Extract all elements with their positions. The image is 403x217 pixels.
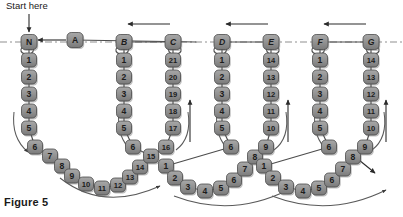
node-label: 12 [267, 90, 275, 99]
col-B-down-cell[interactable]: 3 [117, 87, 133, 103]
col-F-down-cell[interactable]: 1 [313, 53, 329, 69]
col-F-down-cell[interactable]: 3 [313, 87, 329, 103]
node-label: 1 [220, 55, 225, 65]
diagram-svg: NABCDEFG12345123452120191817123451413121… [0, 0, 403, 217]
letter-node-F[interactable]: F [312, 35, 329, 52]
node-label: 11 [98, 184, 107, 193]
node-label: 7 [48, 151, 53, 161]
col-D-down-cell[interactable]: 2 [215, 70, 231, 86]
col-N-down-cell[interactable]: 3 [22, 87, 38, 103]
col-E-up-cell[interactable]: 14 [264, 53, 280, 69]
col-G-up-cell[interactable]: 14 [364, 53, 380, 69]
node-label: 7 [243, 164, 248, 174]
node-label: 1 [318, 55, 323, 65]
node-label: 9 [264, 142, 269, 152]
col-B-down-cell[interactable]: 4 [117, 104, 133, 120]
col-F-down-cell[interactable]: 4 [313, 104, 329, 120]
node-label: 8 [351, 152, 356, 162]
col-D-down-cell[interactable]: 4 [215, 104, 231, 120]
col-E-up-cell[interactable]: 12 [264, 87, 280, 103]
node-label: B [121, 37, 127, 47]
letter-node-D[interactable]: D [214, 35, 231, 52]
node-label: F [317, 37, 323, 47]
col-G-up-cell[interactable]: 10 [364, 121, 380, 137]
node-label: 9 [70, 171, 75, 181]
letter-node-C[interactable]: C [165, 35, 182, 52]
col-B-down-cell[interactable]: 5 [117, 121, 133, 137]
letter-node-G[interactable]: G [363, 35, 380, 52]
col-C-up-cell[interactable]: 20 [166, 70, 182, 86]
node-label: 3 [318, 89, 323, 99]
node-label: 14 [367, 56, 376, 65]
node-label: 3 [186, 182, 191, 192]
node-label: 5 [122, 123, 127, 133]
col-E-up-cell[interactable]: 10 [264, 121, 280, 137]
col-D-down-cell[interactable]: 5 [215, 121, 231, 137]
arc2-node-9[interactable]: 9 [259, 140, 275, 156]
letter-node-A[interactable]: A [67, 33, 84, 50]
col-B-down-cell[interactable]: 2 [117, 70, 133, 86]
node-label: D [219, 37, 225, 47]
col-N-down-cell[interactable]: 5 [22, 121, 38, 137]
col-B-down-cell[interactable]: 1 [117, 53, 133, 69]
col-E-up-cell[interactable]: 11 [264, 104, 280, 120]
col-F-down-cell[interactable]: 2 [313, 70, 329, 86]
node-label: C [170, 37, 177, 47]
node-label: 4 [203, 186, 208, 196]
col-G-up-cell[interactable]: 12 [364, 87, 380, 103]
arc3-node-3[interactable]: 3 [279, 180, 295, 196]
col-C-up-cell[interactable]: 18 [166, 104, 182, 120]
arc2-node-3[interactable]: 3 [181, 180, 197, 196]
arc1-node-15[interactable]: 15 [144, 149, 160, 165]
node-label: 4 [122, 106, 127, 116]
node-label: 12 [114, 181, 122, 190]
col-C-up-cell[interactable]: 21 [166, 53, 182, 69]
col-E-up-cell[interactable]: 13 [264, 70, 280, 86]
node-label: 10 [267, 124, 275, 133]
colB-cap-6[interactable]: 6 [126, 140, 142, 156]
col-C-up-cell[interactable]: 17 [166, 121, 182, 137]
node-label: 6 [229, 142, 234, 152]
node-label: 5 [219, 183, 224, 193]
arc3-node-9[interactable]: 9 [358, 140, 374, 156]
node-label: G [368, 37, 375, 47]
col-N-down-cell[interactable]: 4 [22, 104, 38, 120]
node-label: 21 [169, 56, 178, 65]
arc1-node-11[interactable]: 11 [95, 181, 111, 197]
node-label: 1 [164, 161, 169, 171]
arc1-node-6-anchor[interactable]: 6 [28, 140, 44, 156]
letter-node-E[interactable]: E [263, 35, 280, 52]
node-label: 3 [284, 182, 289, 192]
col-D-down-cell[interactable]: 3 [215, 87, 231, 103]
col-C-up-cell[interactable]: 19 [166, 87, 182, 103]
colD-to-arc2-link [166, 147, 231, 166]
node-label: 19 [169, 90, 177, 99]
col-N-down-cell[interactable]: 1 [22, 53, 38, 69]
node-label: 6 [131, 142, 136, 152]
node-label: 13 [367, 73, 375, 82]
node-label: 1 [27, 55, 32, 65]
letter-node-N[interactable]: N [21, 35, 38, 52]
arc1-node-16[interactable]: 16 [159, 140, 175, 156]
node-label: 6 [330, 175, 335, 185]
letter-node-B[interactable]: B [116, 35, 133, 52]
col-G-up-cell[interactable]: 13 [364, 70, 380, 86]
node-label: 1 [262, 161, 267, 171]
node-label: 13 [126, 173, 134, 182]
node-label: 4 [27, 106, 32, 116]
node-label: 2 [173, 173, 178, 183]
col-N-down-cell[interactable]: 2 [22, 70, 38, 86]
colF-cap-6[interactable]: 6 [322, 140, 338, 156]
node-label: 18 [169, 107, 177, 116]
colD-cap-6[interactable]: 6 [224, 140, 240, 156]
arc2-node-4[interactable]: 4 [198, 184, 214, 200]
arc1-node-10[interactable]: 10 [79, 177, 95, 193]
col-F-down-cell[interactable]: 5 [313, 121, 329, 137]
node-label: 11 [367, 107, 376, 116]
col-G-up-cell[interactable]: 11 [364, 104, 380, 120]
node-label: 5 [317, 183, 322, 193]
col-D-down-cell[interactable]: 1 [215, 53, 231, 69]
figure-canvas: Start here Figure 5 NABCDEFG123451234521… [0, 0, 403, 217]
node-label: 14 [136, 163, 145, 172]
arc3-node-4[interactable]: 4 [296, 184, 312, 200]
